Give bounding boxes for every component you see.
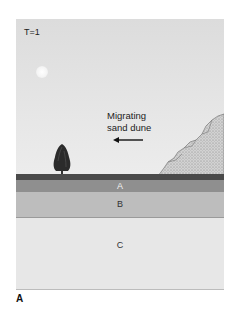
dune-label-line2: sand dune — [107, 122, 151, 134]
time-label: T=1 — [24, 27, 40, 37]
tree-icon — [50, 143, 74, 175]
panel-label: A — [16, 293, 23, 304]
arrow-left-icon — [113, 137, 143, 143]
sky: T=1 Migrating sand dune — [16, 19, 224, 175]
layer-a-label: A — [16, 181, 224, 191]
stratigraphy-diagram: T=1 Migrating sand dune — [16, 19, 224, 290]
layer-c: C — [16, 218, 224, 290]
layer-b-label: B — [16, 199, 224, 209]
dune-label: Migrating sand dune — [107, 110, 151, 134]
sun-icon — [36, 66, 48, 78]
layer-c-label: C — [16, 240, 224, 250]
layer-a: A — [16, 180, 224, 192]
sand-dune — [158, 112, 224, 176]
dune-label-line1: Migrating — [107, 110, 151, 122]
layer-b: B — [16, 192, 224, 218]
